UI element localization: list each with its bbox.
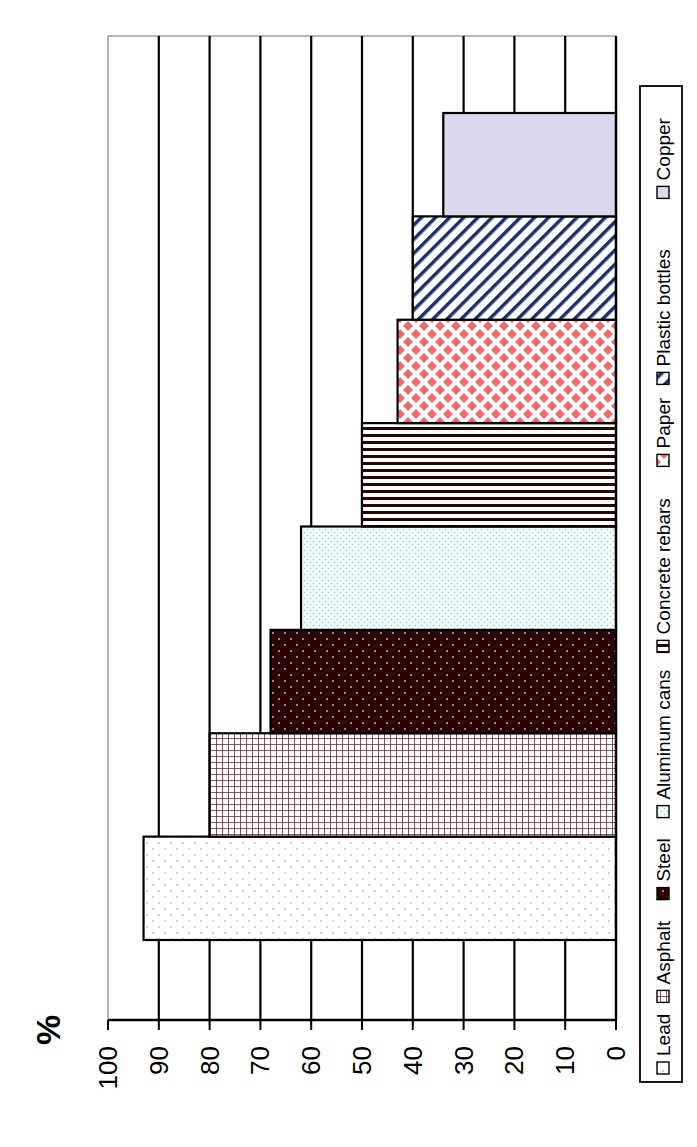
legend-swatch-copper xyxy=(657,186,669,198)
legend: LeadAsphaltSteelAluminum cansConcrete re… xyxy=(640,86,682,1082)
legend-swatch-paper xyxy=(657,454,669,466)
tick-label: 90 xyxy=(144,1046,174,1075)
bar-copper xyxy=(443,113,616,216)
legend-swatch-asphalt xyxy=(657,990,669,1002)
rotated-bar-chart: 0102030405060708090100% LeadAsphaltSteel… xyxy=(0,0,697,1147)
tick-label: 30 xyxy=(449,1046,479,1075)
tick-label: 50 xyxy=(347,1046,377,1075)
legend-swatch-steel xyxy=(657,888,669,900)
bar-lead xyxy=(144,837,616,940)
legend-label: Copper xyxy=(653,117,674,180)
legend-swatch-aluminum-cans xyxy=(657,806,669,818)
legend-label: Aluminum cans xyxy=(653,670,674,800)
tick-label: 60 xyxy=(296,1046,326,1075)
legend-label: Concrete rebars xyxy=(653,498,674,634)
legend-label: Plastic bottles xyxy=(653,249,674,366)
tick-label: 70 xyxy=(245,1046,275,1075)
legend-swatch-concrete-rebars xyxy=(657,640,669,652)
legend-label: Steel xyxy=(653,838,674,881)
bar-steel xyxy=(271,630,616,733)
tick-label: 20 xyxy=(499,1046,529,1075)
bar-paper xyxy=(398,320,616,423)
legend-label: Asphalt xyxy=(653,920,674,984)
legend-swatch-plastic-bottles xyxy=(657,372,669,384)
tick-label: 100 xyxy=(93,1046,123,1089)
plot-area xyxy=(108,36,616,1020)
tick-label: 10 xyxy=(550,1046,580,1075)
legend-label: Paper xyxy=(653,397,674,448)
legend-swatch-lead xyxy=(657,1062,669,1074)
bar-concrete-rebars xyxy=(362,423,616,526)
tick-label: 40 xyxy=(398,1046,428,1075)
tick-label: 80 xyxy=(195,1046,225,1075)
legend-label: Lead xyxy=(653,1014,674,1056)
bar-plastic-bottles xyxy=(413,216,616,319)
tick-label: 0 xyxy=(601,1046,631,1060)
bar-asphalt xyxy=(210,733,616,836)
axis-label: % xyxy=(29,1015,67,1045)
bar-aluminum-cans xyxy=(301,527,616,630)
